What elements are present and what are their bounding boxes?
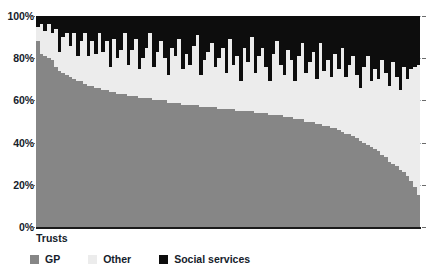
y-axis-tick-mark xyxy=(31,16,35,17)
y-axis-tick-mark xyxy=(422,143,426,144)
stacked-bar-chart: 0%20%40%60%80%100% Trusts GPOtherSocial … xyxy=(0,0,432,278)
y-axis-tick-mark xyxy=(422,227,426,228)
y-axis-labels: 0%20%40%60%80%100% xyxy=(0,0,34,278)
legend-item-label: GP xyxy=(45,253,60,265)
social-services-swatch xyxy=(159,255,168,264)
y-axis-tick-mark xyxy=(422,16,426,17)
x-axis-line xyxy=(36,227,421,229)
legend-item[interactable]: GP xyxy=(30,253,60,265)
y-axis-tick-mark xyxy=(31,227,35,228)
y-axis-tick-mark xyxy=(31,143,35,144)
legend-item[interactable]: Social services xyxy=(159,253,250,265)
legend-item[interactable]: Other xyxy=(88,253,131,265)
plot-area xyxy=(36,16,421,227)
bar-segment-social-services xyxy=(417,16,421,65)
y-axis-tick-mark xyxy=(422,185,426,186)
bar-segment-other xyxy=(417,65,421,196)
y-axis-tick-mark xyxy=(422,58,426,59)
y-axis-tick-mark xyxy=(31,58,35,59)
other-swatch xyxy=(88,255,97,264)
y-axis-tick-mark xyxy=(31,100,35,101)
stacked-bar[interactable] xyxy=(417,16,421,227)
legend-item-label: Social services xyxy=(174,253,250,265)
legend-item-label: Other xyxy=(103,253,131,265)
gp-swatch xyxy=(30,255,39,264)
y-axis-tick-mark xyxy=(31,185,35,186)
bar-series-container xyxy=(36,16,421,227)
chart-legend: GPOtherSocial services xyxy=(30,253,278,265)
y-axis-tick-mark xyxy=(422,100,426,101)
x-axis-title: Trusts xyxy=(36,232,68,244)
bar-segment-gp xyxy=(417,195,421,227)
